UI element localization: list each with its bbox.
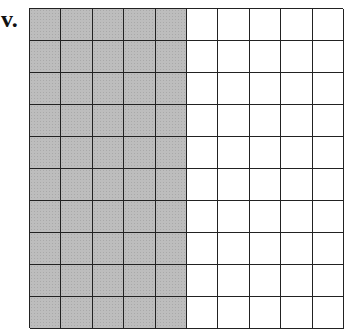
empty-cell [187,201,218,233]
shaded-cell [61,137,92,169]
empty-cell [187,297,218,329]
empty-cell [218,9,249,41]
empty-cell [187,9,218,41]
empty-cell [313,233,344,265]
empty-cell [281,265,312,297]
shaded-cell [93,169,124,201]
shaded-cell [30,233,61,265]
empty-cell [218,297,249,329]
shaded-cell [156,41,187,73]
empty-cell [187,105,218,137]
empty-cell [313,105,344,137]
empty-cell [250,233,281,265]
shaded-cell [124,41,155,73]
empty-cell [218,233,249,265]
shaded-cell [30,265,61,297]
shaded-cell [156,9,187,41]
empty-cell [187,73,218,105]
shaded-cell [30,41,61,73]
empty-cell [281,73,312,105]
empty-cell [218,265,249,297]
empty-cell [313,9,344,41]
empty-cell [250,265,281,297]
empty-cell [218,105,249,137]
shaded-cell [61,41,92,73]
shaded-cell [61,233,92,265]
empty-cell [313,73,344,105]
shaded-cell [30,73,61,105]
empty-cell [313,137,344,169]
shaded-cell [124,297,155,329]
shaded-cell [61,265,92,297]
empty-cell [281,233,312,265]
empty-cell [187,265,218,297]
problem-label: v. [1,6,18,33]
shaded-cell [30,9,61,41]
empty-cell [250,137,281,169]
hundred-grid [29,8,343,328]
shaded-cell [61,73,92,105]
shaded-cell [30,169,61,201]
empty-cell [250,41,281,73]
shaded-cell [124,265,155,297]
shaded-cell [156,137,187,169]
empty-cell [250,297,281,329]
empty-cell [250,105,281,137]
shaded-cell [93,137,124,169]
shaded-cell [93,105,124,137]
shaded-cell [124,233,155,265]
empty-cell [281,201,312,233]
empty-cell [313,169,344,201]
empty-cell [313,297,344,329]
empty-cell [281,9,312,41]
empty-cell [313,41,344,73]
empty-cell [187,137,218,169]
empty-cell [313,265,344,297]
shaded-cell [93,73,124,105]
empty-cell [250,9,281,41]
empty-cell [250,201,281,233]
empty-cell [218,201,249,233]
shaded-cell [30,137,61,169]
shaded-cell [156,169,187,201]
empty-cell [218,169,249,201]
shaded-cell [30,201,61,233]
empty-cell [281,105,312,137]
shaded-cell [93,297,124,329]
empty-cell [218,41,249,73]
shaded-cell [156,105,187,137]
shaded-cell [93,233,124,265]
empty-cell [218,137,249,169]
empty-cell [187,41,218,73]
empty-cell [281,137,312,169]
shaded-cell [124,169,155,201]
shaded-cell [30,105,61,137]
shaded-cell [156,297,187,329]
empty-cell [250,169,281,201]
empty-cell [281,41,312,73]
shaded-cell [30,297,61,329]
shaded-cell [124,201,155,233]
shaded-cell [156,233,187,265]
shaded-cell [93,41,124,73]
shaded-cell [124,137,155,169]
empty-cell [313,201,344,233]
shaded-cell [124,73,155,105]
shaded-cell [156,73,187,105]
empty-cell [281,297,312,329]
empty-cell [281,169,312,201]
shaded-cell [61,297,92,329]
empty-cell [187,169,218,201]
shaded-cell [156,201,187,233]
shaded-cell [61,9,92,41]
shaded-cell [61,105,92,137]
empty-cell [187,233,218,265]
shaded-cell [93,265,124,297]
shaded-cell [156,265,187,297]
shaded-cell [61,169,92,201]
shaded-cell [124,9,155,41]
shaded-cell [93,9,124,41]
empty-cell [218,73,249,105]
shaded-cell [124,105,155,137]
shaded-cell [93,201,124,233]
